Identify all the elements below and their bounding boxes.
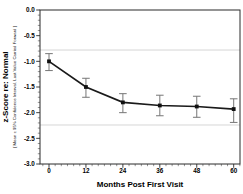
y-tick-label: -1.0	[24, 58, 35, 65]
data-point-marker	[232, 107, 236, 111]
y-axis-subtitle: [ Mean ± 95% Confidence Interval, Last V…	[12, 26, 17, 148]
x-tick-label: 0	[47, 167, 51, 174]
y-tick-label: -2.5	[24, 135, 35, 142]
chart-generated-layer: 012243648600.0-0.5-1.0-1.5-2.0-2.5-3.0	[24, 6, 240, 174]
data-point-marker	[47, 59, 51, 63]
data-point-marker	[158, 104, 162, 108]
y-tick-label: -1.5	[24, 83, 35, 90]
mean-line	[49, 61, 234, 109]
x-tick-label: 60	[230, 167, 238, 174]
data-point-marker	[121, 101, 125, 105]
y-tick-label: -2.0	[24, 109, 35, 116]
x-tick-label: 36	[156, 167, 164, 174]
x-axis-title: Months Post First Visit	[97, 180, 184, 189]
x-tick-label: 24	[119, 167, 127, 174]
y-axis-title: z-Score re: Normal	[1, 51, 10, 122]
y-tick-label: 0.0	[26, 6, 35, 13]
zscore-line-chart-figure: 012243648600.0-0.5-1.0-1.5-2.0-2.5-3.0 M…	[0, 0, 243, 194]
data-point-marker	[195, 105, 199, 109]
x-tick-label: 48	[193, 167, 201, 174]
y-tick-label: -0.5	[24, 32, 35, 39]
x-tick-label: 12	[82, 167, 90, 174]
plot-frame	[40, 10, 240, 164]
data-point-marker	[84, 85, 88, 89]
line-chart-canvas: 012243648600.0-0.5-1.0-1.5-2.0-2.5-3.0 M…	[0, 0, 243, 194]
y-tick-label: -3.0	[24, 160, 35, 167]
